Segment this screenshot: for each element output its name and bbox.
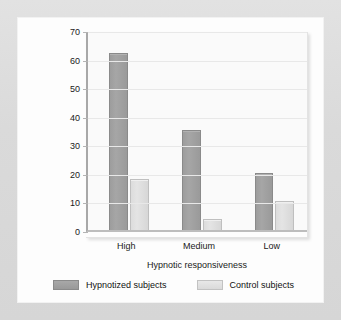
y-axis-tick — [83, 146, 88, 147]
bar — [255, 173, 274, 230]
y-axis-tick — [83, 232, 88, 233]
gridline — [88, 175, 308, 176]
y-axis-label: Percentage who recalled a mask — [30, 0, 46, 28]
y-axis-tick — [83, 203, 88, 204]
y-axis-tick — [83, 118, 88, 119]
y-axis-tick — [83, 32, 88, 33]
legend-item: Hypnotized subjects — [53, 280, 167, 290]
bar-group: Low — [235, 32, 308, 230]
gridline — [88, 89, 308, 90]
bar-group: High — [90, 32, 163, 230]
legend-label: Hypnotized subjects — [86, 280, 167, 290]
y-axis-tick-label: 0 — [75, 227, 80, 237]
bar — [182, 130, 201, 230]
bar — [203, 219, 222, 230]
gridline — [88, 32, 308, 33]
y-axis-tick — [83, 61, 88, 62]
y-axis-tick-label: 60 — [70, 56, 80, 66]
legend-swatch-light — [197, 280, 223, 290]
y-axis-tick-label: 40 — [70, 113, 80, 123]
y-axis-tick — [83, 89, 88, 90]
y-axis-tick — [83, 175, 88, 176]
gridline — [88, 118, 308, 119]
legend-label: Control subjects — [230, 280, 295, 290]
figure-card: Percentage who recalled a mask HighMediu… — [18, 18, 323, 302]
bar-chart: Percentage who recalled a mask HighMediu… — [18, 18, 323, 302]
y-axis-tick-label: 70 — [70, 27, 80, 37]
x-axis-tick-label: High — [117, 241, 136, 251]
gridline — [88, 146, 308, 147]
y-axis-tick-label: 10 — [70, 198, 80, 208]
x-axis-tick-label: Medium — [183, 241, 215, 251]
legend-item: Control subjects — [197, 280, 295, 290]
legend-swatch-dark — [53, 280, 79, 290]
gridline — [88, 61, 308, 62]
y-axis-tick-label: 50 — [70, 84, 80, 94]
y-axis-tick-label: 30 — [70, 141, 80, 151]
chart-legend: Hypnotized subjectsControl subjects — [38, 280, 309, 290]
bars-layer: HighMediumLow — [90, 32, 308, 230]
y-axis-tick-label: 20 — [70, 170, 80, 180]
bar — [275, 201, 294, 230]
plot-area-wrapper: Percentage who recalled a mask HighMediu… — [60, 28, 310, 238]
plot-axes: HighMediumLow 010203040506070 — [86, 32, 308, 232]
x-axis-tick-label: Low — [263, 241, 280, 251]
bar-group: Medium — [163, 32, 236, 230]
x-axis-label: Hypnotic responsiveness — [86, 260, 308, 270]
gridline — [88, 203, 308, 204]
